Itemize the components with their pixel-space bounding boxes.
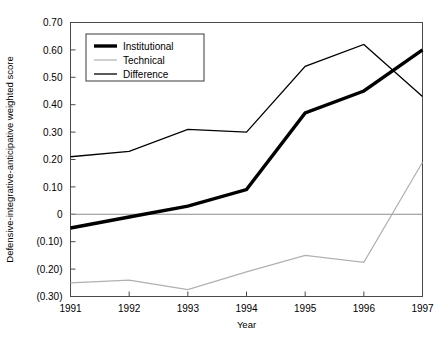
line-chart: 0.700.600.500.400.300.200.100(0.10)(0.20… [0, 0, 442, 338]
y-axis-tick-label: 0.10 [43, 182, 63, 193]
x-axis-tick-label: 1996 [353, 303, 376, 314]
x-axis-title: Year [237, 319, 256, 330]
y-axis-tick-label: 0.60 [43, 45, 63, 56]
y-axis-tick-label: (0.30) [36, 291, 62, 302]
legend-label-institutional: Institutional [123, 41, 174, 52]
x-axis-tick-label: 1994 [235, 303, 258, 314]
y-axis-tick-label: (0.10) [36, 236, 62, 247]
y-axis-tick-label: 0.50 [43, 72, 63, 83]
y-axis-tick-label: 0.40 [43, 99, 63, 110]
y-axis-tick-label: 0.30 [43, 127, 63, 138]
y-axis-title: Defensive-integrative-anticipative weigh… [4, 56, 15, 262]
y-axis-tick-label: 0 [57, 209, 63, 220]
x-axis-tick-label: 1991 [59, 303, 82, 314]
x-axis-tick-label: 1993 [177, 303, 200, 314]
x-axis-tick-label: 1992 [118, 303, 141, 314]
legend-label-difference: Difference [123, 69, 169, 80]
legend-label-technical: Technical [123, 55, 165, 66]
y-axis-tick-label: (0.20) [36, 264, 62, 275]
x-axis-tick-label: 1997 [411, 303, 434, 314]
chart-container: 0.700.600.500.400.300.200.100(0.10)(0.20… [0, 0, 442, 338]
y-axis-tick-label: 0.70 [43, 17, 63, 28]
y-axis-tick-label: 0.20 [43, 154, 63, 165]
x-axis-tick-label: 1995 [294, 303, 317, 314]
